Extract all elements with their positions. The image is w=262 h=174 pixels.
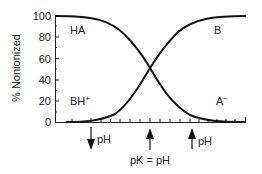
y-tick-label: 80 xyxy=(39,31,51,43)
arrow-left-label: pH xyxy=(97,133,111,145)
y-tick-label: 0 xyxy=(45,116,51,128)
label-b: B xyxy=(214,24,221,36)
ionization-chart: % Nonionized 100 80 60 40 20 0 xyxy=(0,0,262,174)
arrow-center-label: pK = pH xyxy=(130,154,170,166)
y-tick-label: 40 xyxy=(39,74,51,86)
arrow-right-label: pH xyxy=(198,135,212,147)
y-axis-title: % Nonionized xyxy=(10,34,22,102)
arrow-down-icon xyxy=(87,127,95,150)
arrow-up-icon xyxy=(188,128,196,149)
y-tick-label: 60 xyxy=(39,53,51,65)
y-tick-label: 100 xyxy=(33,10,51,22)
arrow-up-icon xyxy=(146,128,154,150)
y-tick-label: 20 xyxy=(39,95,51,107)
label-bh: BH+ xyxy=(70,94,90,107)
label-a: A− xyxy=(216,94,228,107)
label-ha: HA xyxy=(70,24,86,36)
